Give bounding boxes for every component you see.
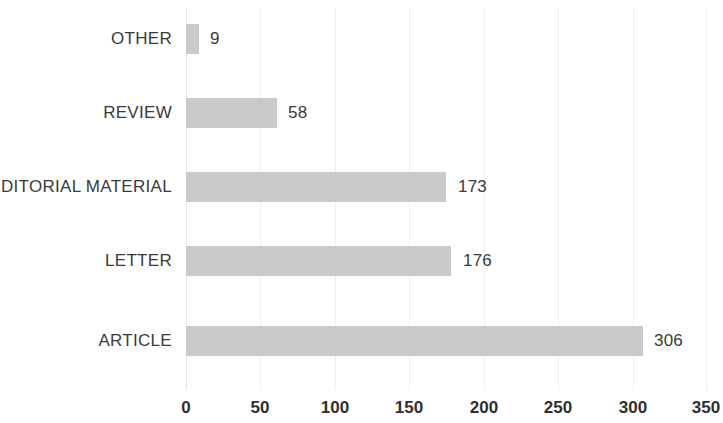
- category-axis-labels: OTHER REVIEW EDITORIAL MATERIAL LETTER A…: [0, 8, 172, 390]
- bar-article: [186, 326, 643, 356]
- bar-letter: [186, 246, 451, 276]
- x-tick-label: 300: [619, 398, 647, 418]
- bar-value-label: 173: [458, 177, 487, 197]
- x-tick-label: 150: [395, 398, 423, 418]
- category-label: ARTICLE: [98, 326, 172, 356]
- category-label: EDITORIAL MATERIAL: [0, 172, 172, 202]
- x-tick-label: 100: [321, 398, 349, 418]
- plot-area: 9 58 173 176 306: [186, 8, 707, 390]
- x-tick-label: 200: [470, 398, 498, 418]
- category-label: REVIEW: [103, 98, 172, 128]
- bar-value-label: 306: [654, 331, 683, 351]
- x-tick-label: 50: [251, 398, 270, 418]
- bar-row: 306: [186, 326, 707, 356]
- bar-other: [186, 24, 199, 54]
- bar-row: 9: [186, 24, 707, 54]
- x-tick-label: 0: [181, 398, 190, 418]
- x-tick-label: 350: [692, 398, 720, 418]
- bar-value-label: 176: [463, 251, 492, 271]
- bar-row: 173: [186, 172, 707, 202]
- bar-review: [186, 98, 277, 128]
- x-tick-label: 250: [544, 398, 572, 418]
- bar-row: 176: [186, 246, 707, 276]
- bar-editorial-material: [186, 172, 446, 202]
- bar-value-label: 58: [288, 103, 307, 123]
- category-label: LETTER: [105, 246, 172, 276]
- x-axis-labels: 0 50 100 150 200 250 300 350: [186, 394, 707, 423]
- bar-chart: OTHER REVIEW EDITORIAL MATERIAL LETTER A…: [0, 0, 723, 423]
- bar-value-label: 9: [210, 29, 220, 49]
- bar-row: 58: [186, 98, 707, 128]
- category-label: OTHER: [111, 24, 172, 54]
